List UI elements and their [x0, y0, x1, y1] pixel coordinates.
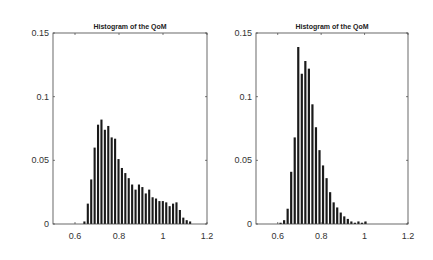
histogram-right-plot: 0.60.811.200.050.10.15Histogram of the Q… [203, 0, 433, 260]
y-tick-label: 0 [44, 219, 49, 229]
histogram-bar [155, 199, 157, 224]
y-tick-label: 0.05 [31, 155, 49, 165]
histogram-bar [124, 173, 126, 224]
histogram-bar [152, 197, 154, 224]
y-tick-label: 0.05 [234, 155, 252, 165]
histogram-bar [165, 202, 167, 224]
y-tick-label: 0.15 [234, 28, 252, 38]
histogram-left-plot: 0.60.811.200.050.10.15Histogram of the Q… [0, 0, 216, 260]
histogram-bar [138, 185, 140, 224]
histogram-bar [315, 127, 317, 224]
histogram-bar [169, 206, 171, 224]
histogram-bar [117, 159, 119, 224]
histogram-bar [283, 220, 285, 224]
histogram-bar [111, 137, 113, 224]
chart-title: Histogram of the QoM [295, 23, 368, 31]
histogram-bar [162, 201, 164, 224]
histogram-bar [128, 178, 130, 224]
chart-title: Histogram of the QoM [93, 23, 166, 31]
histogram-bar [90, 179, 92, 224]
histogram-bar [100, 120, 102, 224]
y-tick-label: 0.1 [36, 92, 49, 102]
x-tick-label: 0.8 [113, 231, 126, 241]
y-tick-label: 0 [247, 219, 252, 229]
histogram-bars [83, 120, 191, 224]
x-tick-label: 0.6 [271, 231, 284, 241]
y-tick-label: 0.15 [31, 28, 49, 38]
histogram-bar [325, 178, 327, 224]
histogram-bar [179, 210, 181, 224]
histogram-bar [114, 139, 116, 224]
histogram-bar [97, 125, 99, 224]
x-tick-label: 0.8 [315, 231, 328, 241]
histogram-bar [343, 216, 345, 224]
histogram-bar [94, 148, 96, 224]
x-tick-label: 0.6 [69, 231, 82, 241]
histogram-bar [134, 190, 136, 224]
histogram-bar [87, 204, 89, 224]
histogram-bar [336, 207, 338, 224]
histogram-bar [311, 104, 313, 224]
histogram-bar [172, 204, 174, 224]
histogram-bar [182, 218, 184, 224]
histogram-bar [145, 193, 147, 224]
histogram-bar [340, 213, 342, 224]
histogram-bar [347, 219, 349, 224]
histogram-bar [175, 202, 177, 224]
histogram-left: 0.60.811.200.050.10.15Histogram of the Q… [0, 0, 216, 260]
y-tick-label: 0.1 [239, 92, 252, 102]
histogram-bar [158, 201, 160, 224]
histogram-bar [297, 47, 299, 224]
histogram-bar [301, 74, 303, 224]
x-tick-label: 1 [160, 231, 165, 241]
histogram-bar [308, 69, 310, 224]
histogram-bar [290, 172, 292, 224]
histogram-right: 0.60.811.200.050.10.15Histogram of the Q… [203, 0, 433, 260]
histogram-bar [304, 61, 306, 224]
histogram-bar [104, 130, 106, 224]
histogram-bar [107, 126, 109, 224]
x-tick-label: 1 [362, 231, 367, 241]
histogram-bar [329, 192, 331, 224]
axes-frame [256, 33, 408, 224]
x-tick-label: 1.2 [402, 231, 415, 241]
histogram-bar [131, 185, 133, 224]
histogram-bar [333, 202, 335, 224]
histogram-bar [322, 165, 324, 224]
histogram-bar [148, 190, 150, 224]
axes-frame [53, 33, 207, 224]
histogram-bar [287, 209, 289, 224]
histogram-bar [141, 187, 143, 224]
histogram-bar [186, 220, 188, 224]
histogram-bar [294, 137, 296, 224]
histogram-bars [279, 47, 366, 224]
histogram-bar [121, 168, 123, 224]
histogram-bar [318, 150, 320, 224]
